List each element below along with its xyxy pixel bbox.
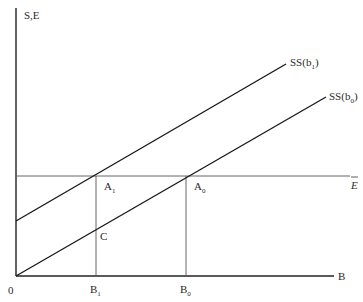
point-c-label: C xyxy=(100,230,107,242)
y-axis-label: S,E xyxy=(24,9,40,21)
point-a1-label: A1 xyxy=(104,180,116,195)
ss-b0-curve xyxy=(16,97,326,276)
ss-b0-label: SS(b0) xyxy=(329,90,358,105)
e-bar-label: E xyxy=(350,179,358,191)
origin-label: 0 xyxy=(8,284,14,296)
x-axis-label: B xyxy=(338,270,345,282)
b1-tick-label: B1 xyxy=(90,283,101,298)
point-a0-label: A0 xyxy=(194,180,206,195)
b0-tick-label: B0 xyxy=(180,283,191,298)
ss-b1-label: SS(b1) xyxy=(290,56,319,71)
diagram-canvas: S,E B 0 SS(b1) SS(b0) E A1 A0 C B1 B0 xyxy=(0,0,363,302)
